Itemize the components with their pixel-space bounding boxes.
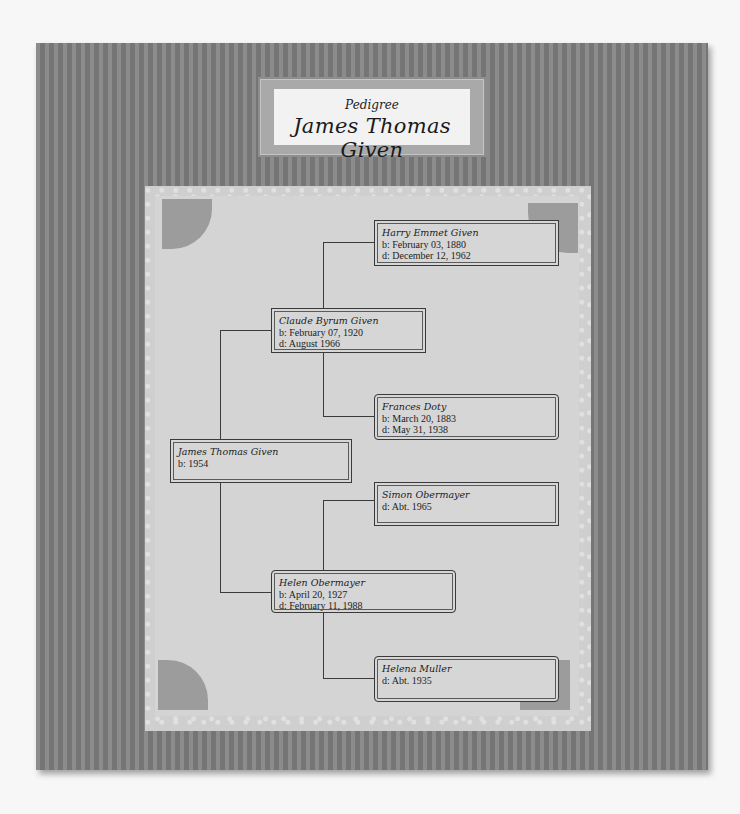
person-birth: b: March 20, 1883 (382, 413, 551, 424)
person-death: d: Abt. 1935 (382, 675, 551, 686)
person-birth: b: April 20, 1927 (279, 589, 448, 600)
person-death: d: Abt. 1965 (382, 501, 551, 512)
person-name: Claude Byrum Given (279, 315, 418, 327)
person-birth: b: 1954 (178, 458, 344, 469)
chart-subtitle: Pedigree (274, 98, 470, 112)
person-box-mother[interactable]: Helen Obermayer b: April 20, 1927 d: Feb… (271, 570, 456, 613)
person-name: James Thomas Given (178, 446, 344, 458)
person-box-paternal-grandfather[interactable]: Harry Emmet Given b: February 03, 1880 d… (374, 220, 559, 266)
title-plaque: Pedigree James Thomas Given (258, 77, 486, 157)
connector-line (220, 482, 221, 592)
connector-line (323, 678, 375, 679)
person-birth: b: February 07, 1920 (279, 327, 418, 338)
connector-line (323, 416, 375, 417)
chart-title: James Thomas Given (274, 114, 470, 162)
person-box-root[interactable]: James Thomas Given b: 1954 (170, 439, 352, 483)
connector-line (220, 592, 272, 593)
connector-line (220, 330, 221, 440)
person-box-maternal-grandmother[interactable]: Helena Muller d: Abt. 1935 (374, 656, 559, 702)
connector-line (323, 242, 324, 308)
title-card: Pedigree James Thomas Given (274, 89, 470, 145)
connector-line (323, 612, 324, 678)
person-death: d: May 31, 1938 (382, 424, 551, 435)
person-box-father[interactable]: Claude Byrum Given b: February 07, 1920 … (271, 308, 426, 353)
person-name: Simon Obermayer (382, 489, 551, 501)
connector-line (323, 242, 375, 243)
person-name: Helena Muller (382, 663, 551, 675)
person-name: Frances Doty (382, 401, 551, 413)
person-name: Helen Obermayer (279, 577, 448, 589)
person-death: d: December 12, 1962 (382, 250, 551, 261)
connector-line (323, 352, 324, 416)
connector-line (323, 500, 324, 570)
person-birth: b: February 03, 1880 (382, 239, 551, 250)
person-box-paternal-grandmother[interactable]: Frances Doty b: March 20, 1883 d: May 31… (374, 394, 559, 440)
person-name: Harry Emmet Given (382, 227, 551, 239)
connector-line (323, 500, 375, 501)
person-box-maternal-grandfather[interactable]: Simon Obermayer d: Abt. 1965 (374, 482, 559, 526)
connector-line (220, 330, 272, 331)
person-death: d: February 11, 1988 (279, 600, 448, 611)
person-death: d: August 1966 (279, 338, 418, 349)
